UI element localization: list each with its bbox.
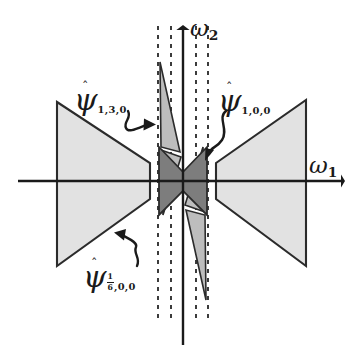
label-psi-1-0-0: ψ ˆ 1,0,0 [218, 86, 271, 116]
left-light-trapezoid [57, 102, 150, 266]
hat-accent-icon: ˆ [226, 82, 232, 95]
psi-subscript-1-3-0: 1,3,0 [98, 104, 127, 115]
omega-1-glyph: ω [309, 152, 328, 178]
pointer-arrow-psi-onesixth-0-0 [114, 229, 138, 266]
fraction-numerator: 1 [107, 273, 114, 283]
lower-light-sliver [186, 210, 206, 300]
hat-accent-icon: ˆ [82, 81, 88, 94]
wavelet-frequency-diagram: ψ ˆ 1,3,0 ψ ˆ 1,0,0 ψ ˆ 1 6 ,0,0 ω2 ω1 [0, 0, 359, 364]
psi-symbol-1-0-0: ψ ˆ [218, 86, 242, 116]
subscript-fraction-one-sixth: 1 6 [107, 273, 114, 291]
label-omega-2: ω2 [190, 17, 219, 40]
upper-light-sliver [160, 62, 180, 152]
psi-subscript-1-0-0: 1,0,0 [242, 105, 271, 116]
omega-2-arrowhead [176, 25, 189, 30]
omega-2-subscript: 2 [209, 27, 219, 43]
pointer-arrow-psi-1-3-0 [125, 111, 156, 131]
hat-accent-icon: ˆ [91, 258, 97, 271]
label-omega-1: ω1 [309, 154, 338, 177]
label-psi-1-3-0: ψ ˆ 1,3,0 [74, 85, 127, 115]
right-light-trapezoid [216, 100, 306, 266]
fraction-denominator: 6 [107, 283, 114, 292]
omega-1-arrowhead [341, 174, 345, 187]
diagram-canvas [0, 0, 359, 364]
subscript-tail: ,0,0 [114, 281, 136, 292]
omega-2-glyph: ω [190, 15, 209, 41]
omega-1-subscript: 1 [328, 164, 338, 180]
psi-symbol-1-3-0: ψ ˆ [74, 85, 98, 115]
psi-symbol-onesixth-0-0: ψ ˆ [83, 262, 107, 292]
label-psi-onesixth-0-0: ψ ˆ 1 6 ,0,0 [83, 262, 136, 292]
